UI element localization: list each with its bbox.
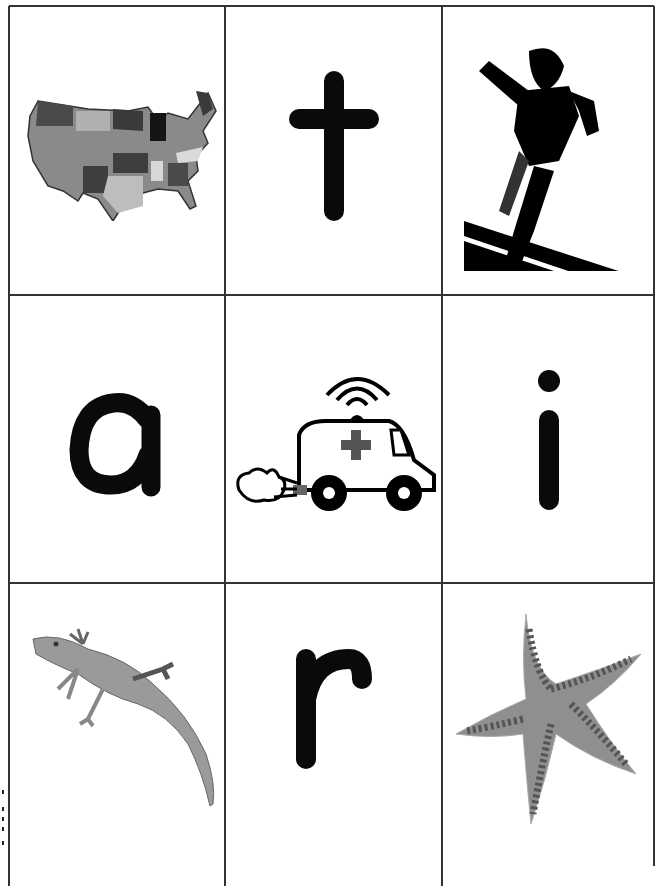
letter-r-glyph: [284, 639, 384, 779]
letter-a-glyph: [63, 375, 173, 505]
card-us-map: [10, 7, 225, 295]
card-ambulance: [226, 296, 442, 583]
starfish-icon: [451, 609, 646, 829]
letter-t-glyph: [289, 71, 379, 231]
cut-marks: [0, 785, 8, 865]
card-letter-t: t: [226, 7, 442, 295]
card-letter-i: i: [443, 296, 654, 583]
us-map-icon: [18, 81, 218, 221]
letter-i-glyph: [529, 365, 569, 515]
card-lizard: [10, 584, 225, 865]
card-letter-a: a: [10, 296, 225, 583]
runner-icon: [459, 31, 639, 271]
card-runner: [443, 7, 654, 295]
card-letter-r: r: [226, 584, 442, 865]
card-starfish: [443, 584, 654, 865]
lizard-icon: [18, 624, 218, 814]
ambulance-icon: [229, 365, 439, 515]
